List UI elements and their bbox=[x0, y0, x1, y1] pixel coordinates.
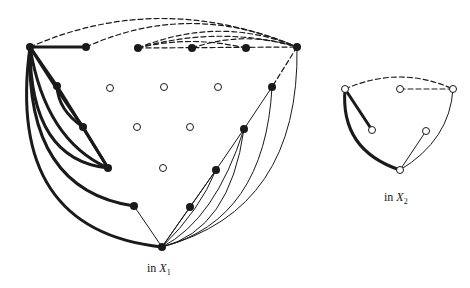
filled-vertex bbox=[82, 43, 90, 51]
filled-vertex bbox=[240, 125, 248, 133]
filled-vertex bbox=[158, 243, 166, 251]
filled-vertex bbox=[268, 83, 276, 91]
open-vertex bbox=[342, 86, 349, 93]
dashed-edge bbox=[138, 47, 297, 48]
filled-vertex bbox=[53, 82, 61, 90]
filled-vertex bbox=[104, 164, 112, 172]
filled-vertex bbox=[188, 44, 196, 52]
filled-vertex bbox=[134, 44, 142, 52]
open-vertex bbox=[397, 86, 404, 93]
panel-x1-nodes bbox=[26, 43, 301, 251]
open-vertex bbox=[160, 165, 167, 172]
open-vertex bbox=[215, 84, 222, 91]
filled-vertex bbox=[130, 202, 138, 210]
open-vertex bbox=[450, 86, 457, 93]
caption-sub: 2 bbox=[404, 197, 408, 206]
caption-var: X bbox=[396, 190, 403, 204]
filled-vertex bbox=[79, 123, 87, 131]
open-vertex bbox=[161, 84, 168, 91]
open-vertex bbox=[187, 124, 194, 131]
thin-edges bbox=[134, 47, 297, 247]
caption-x2: in X2 bbox=[384, 190, 408, 206]
thin-edge bbox=[400, 131, 426, 170]
thin-edge bbox=[216, 129, 244, 170]
caption-x1: in X1 bbox=[147, 261, 171, 277]
open-vertex bbox=[397, 167, 404, 174]
caption-sub: 1 bbox=[167, 268, 171, 277]
open-vertex bbox=[423, 128, 430, 135]
caption-prefix: in bbox=[384, 190, 396, 204]
thin-edge bbox=[134, 206, 162, 247]
diagram-canvas bbox=[0, 0, 470, 288]
filled-vertex bbox=[186, 203, 194, 211]
panel-x2-nodes bbox=[342, 86, 457, 174]
open-vertex bbox=[369, 127, 376, 134]
caption-prefix: in bbox=[147, 261, 159, 275]
dashed-edges bbox=[30, 19, 297, 88]
dashed-edge bbox=[86, 24, 297, 48]
open-vertex bbox=[134, 124, 141, 131]
filled-vertex bbox=[293, 43, 301, 51]
filled-vertex bbox=[242, 44, 250, 52]
filled-vertex bbox=[26, 43, 34, 51]
panel-x1 bbox=[27, 19, 297, 248]
caption-var: X bbox=[159, 261, 166, 275]
dashed-edge bbox=[138, 31, 297, 48]
open-vertex bbox=[107, 85, 114, 92]
thin-edge bbox=[162, 47, 297, 247]
dashed-edge bbox=[272, 47, 297, 87]
filled-vertex bbox=[212, 166, 220, 174]
